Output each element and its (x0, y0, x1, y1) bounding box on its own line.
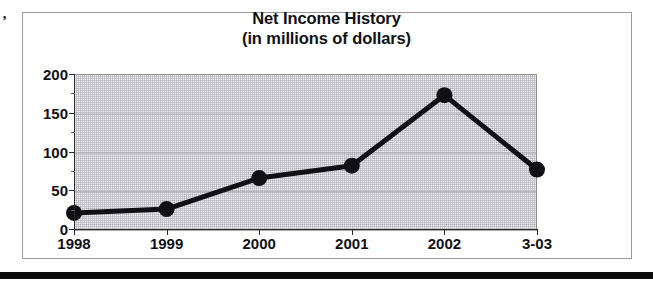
chart-title-block: Net Income History (in millions of dolla… (0, 8, 653, 48)
y-tick-major-100 (69, 152, 75, 153)
net-income-line (74, 95, 537, 213)
y-tick-minor-175 (71, 93, 75, 94)
x-tick-label-2000: 2000 (224, 236, 294, 251)
line-series-svg (74, 75, 537, 230)
chart-title: Net Income History (0, 8, 653, 28)
x-tick-major-1999 (167, 229, 168, 235)
data-point-1999 (159, 201, 175, 217)
y-tick-label-150: 150 (43, 106, 68, 121)
x-axis-line (74, 229, 538, 230)
y-tick-minor-75 (71, 171, 75, 172)
data-point-2000 (251, 170, 267, 186)
x-tick-major-2001 (352, 229, 353, 235)
y-tick-label-100: 100 (43, 145, 68, 160)
data-point-markers (66, 87, 545, 221)
chart-subtitle: (in millions of dollars) (0, 28, 653, 48)
y-tick-minor-25 (71, 210, 75, 211)
data-point-2001 (344, 158, 360, 174)
x-tick-major-2000 (259, 229, 260, 235)
x-tick-label-1999: 1999 (132, 236, 202, 251)
x-tick-label-1998: 1998 (39, 236, 109, 251)
y-tick-major-50 (69, 190, 75, 191)
y-tick-minor-125 (71, 132, 75, 133)
x-tick-major-1998 (74, 229, 75, 235)
y-tick-label-50: 50 (51, 183, 68, 198)
data-point-3-03 (529, 162, 545, 178)
data-point-2002 (436, 87, 452, 103)
x-tick-label-2001: 2001 (317, 236, 387, 251)
page-bottom-rule (0, 272, 653, 279)
plot-area (74, 74, 537, 229)
x-tick-major-2002 (444, 229, 445, 235)
y-tick-major-200 (69, 74, 75, 75)
x-tick-label-2002: 2002 (409, 236, 479, 251)
x-tick-label-3-03: 3-03 (502, 236, 572, 251)
y-tick-label-200: 200 (43, 67, 68, 82)
y-tick-major-150 (69, 113, 75, 114)
x-tick-major-3-03 (537, 229, 538, 235)
